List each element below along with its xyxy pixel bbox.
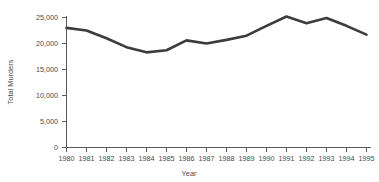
line-chart: 0 5,000 10,000 15,000 20,000 25,000 [0,0,379,182]
x-tick-label-9: 1989 [239,154,255,163]
x-tick-label-13: 1993 [319,154,335,163]
y-axis-ticks: 0 5,000 10,000 15,000 20,000 25,000 [36,13,66,152]
x-axis-ticks [67,148,367,153]
x-tick-label-14: 1994 [339,154,355,163]
y-tick-label-5: 25,000 [36,13,58,22]
x-tick-label-0: 1980 [59,154,75,163]
x-tick-label-1: 1981 [79,154,95,163]
x-tick-label-12: 1992 [299,154,315,163]
y-tick-label-0: 0 [54,143,58,152]
y-tick-label-4: 20,000 [36,39,58,48]
series-line-total-murders [67,16,367,52]
x-tick-label-4: 1984 [139,154,155,163]
x-tick-label-11: 1991 [279,154,295,163]
x-tick-label-10: 1990 [259,154,275,163]
y-tick-label-2: 10,000 [36,91,58,100]
x-tick-label-8: 1988 [219,154,235,163]
chart-page: 0 5,000 10,000 15,000 20,000 25,000 [0,0,379,182]
x-tick-label-3: 1983 [119,154,135,163]
x-tick-label-6: 1986 [179,154,195,163]
x-tick-label-7: 1987 [199,154,215,163]
x-tick-label-2: 1982 [99,154,115,163]
y-axis-title: Total Murders [6,59,15,104]
y-tick-label-1: 5,000 [40,117,58,126]
x-axis-tick-labels: 1980 1981 1982 1983 1984 1985 1986 1987 … [59,154,375,163]
y-tick-label-3: 15,000 [36,65,58,74]
x-tick-label-15: 1995 [359,154,375,163]
x-axis-title: Year [182,169,197,178]
x-tick-label-5: 1985 [159,154,175,163]
